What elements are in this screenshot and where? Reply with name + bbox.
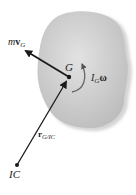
label-G: G bbox=[65, 61, 73, 73]
rigid-body bbox=[37, 11, 127, 128]
position-vector-line bbox=[17, 82, 66, 165]
center-of-mass-point bbox=[67, 75, 71, 79]
label-mvG: mvG bbox=[8, 36, 25, 49]
label-rG-IC: rG/IC bbox=[38, 129, 56, 140]
momentum-diagram: mvG G IGω rG/IC IC bbox=[0, 0, 136, 195]
label-IC: IC bbox=[8, 168, 21, 180]
instantaneous-center-point bbox=[15, 163, 19, 167]
